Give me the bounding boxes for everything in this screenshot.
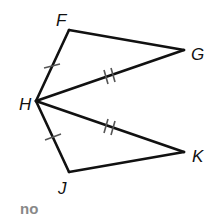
segment-JK bbox=[69, 152, 184, 172]
segment-HK bbox=[36, 101, 184, 152]
label-K: K bbox=[192, 147, 204, 166]
caption-text: no bbox=[20, 200, 38, 217]
triangle-diagram: F G H K J no bbox=[0, 0, 214, 218]
segment-FG bbox=[69, 30, 184, 50]
label-G: G bbox=[191, 45, 204, 64]
label-J: J bbox=[57, 179, 67, 198]
segment-HG bbox=[36, 50, 184, 101]
label-H: H bbox=[19, 95, 32, 114]
label-F: F bbox=[56, 11, 68, 30]
